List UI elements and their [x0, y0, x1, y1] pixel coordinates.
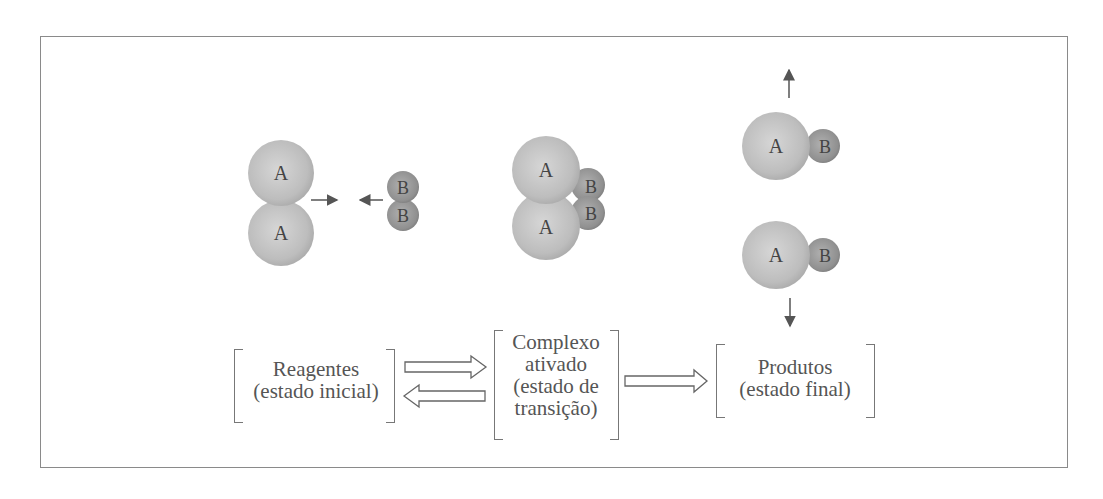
bracket-right-reagentes — [386, 349, 395, 423]
molecule-a2-reactant: A A — [248, 140, 314, 266]
molecule-illustration: A A B B A A B B A B A B — [0, 0, 1103, 499]
svg-text:A: A — [274, 162, 289, 184]
forward-arrow-reagentes-complexo — [405, 356, 486, 378]
stage-subtitle: (estado de — [498, 375, 614, 397]
bracket-right-complexo — [610, 330, 619, 440]
reverse-arrow-complexo-reagentes — [404, 385, 485, 407]
activated-complex-molecule: A A B B — [512, 136, 605, 260]
stage-reagentes: Reagentes (estado inicial) — [238, 358, 394, 402]
stage-complexo-ativado: Complexo ativado (estado de transição) — [498, 331, 614, 419]
svg-text:A: A — [274, 222, 289, 244]
svg-text:B: B — [819, 137, 831, 157]
svg-text:B: B — [819, 246, 831, 266]
stage-subtitle: (estado final) — [720, 378, 870, 400]
svg-text:B: B — [397, 178, 409, 198]
molecule-ab-product-bottom: A B — [742, 221, 840, 289]
stage-title: Reagentes — [238, 358, 394, 380]
svg-text:B: B — [397, 206, 409, 226]
stage-title: Complexo — [498, 331, 614, 353]
svg-text:A: A — [539, 216, 554, 238]
svg-text:B: B — [585, 177, 597, 197]
svg-text:A: A — [539, 159, 554, 181]
molecule-b2-reactant: B B — [387, 171, 419, 231]
svg-text:A: A — [769, 244, 784, 266]
stage-title: Produtos — [720, 356, 870, 378]
stage-subtitle-line2: transição) — [498, 397, 614, 419]
svg-text:B: B — [585, 204, 597, 224]
molecule-ab-product-top: A B — [742, 112, 840, 180]
stage-produtos: Produtos (estado final) — [720, 356, 870, 400]
stage-subtitle: (estado inicial) — [238, 380, 394, 402]
bracket-right-produtos — [866, 344, 875, 418]
stage-title-line2: ativado — [498, 353, 614, 375]
svg-text:A: A — [769, 135, 784, 157]
forward-arrow-complexo-produtos — [625, 370, 707, 392]
